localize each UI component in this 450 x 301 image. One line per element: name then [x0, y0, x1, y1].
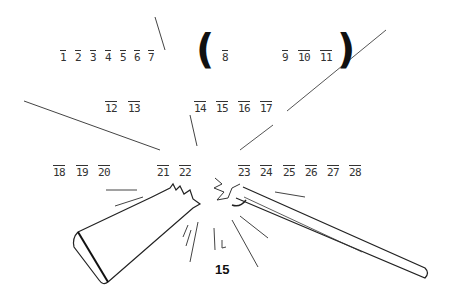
- blank-number: 17: [260, 101, 272, 115]
- broken-rifle-illustration: [0, 0, 450, 301]
- blank-number: 15: [216, 101, 228, 115]
- blank-number: 6: [134, 50, 140, 64]
- ray-line: [240, 125, 273, 150]
- ray-line: [240, 216, 268, 238]
- ray-line: [190, 222, 198, 262]
- blank-number: 12: [105, 101, 117, 115]
- blank-number: 26: [305, 165, 317, 179]
- page-number: 15: [215, 262, 229, 277]
- rifle-barrel: [236, 187, 428, 278]
- blank-number: 5: [120, 50, 126, 64]
- splinter: [222, 240, 226, 248]
- blank-number: 22: [179, 165, 191, 179]
- blank-number: 19: [76, 165, 88, 179]
- blank-number: 27: [327, 165, 339, 179]
- close-parenthesis: ): [337, 29, 355, 69]
- blank-number: 21: [157, 165, 169, 179]
- open-parenthesis: (: [196, 29, 214, 69]
- splinter: [183, 225, 191, 246]
- blank-number: 16: [238, 101, 250, 115]
- blank-number: 24: [260, 165, 272, 179]
- splinter: [214, 178, 240, 200]
- blank-number: 11: [320, 50, 332, 64]
- blank-number: 18: [53, 165, 65, 179]
- blank-number: 20: [98, 165, 110, 179]
- blank-number: 4: [105, 50, 111, 64]
- ray-line: [155, 17, 165, 50]
- ray-line: [275, 192, 305, 197]
- ray-line: [214, 228, 215, 250]
- blank-number: 7: [148, 50, 154, 64]
- blank-number: 9: [282, 50, 288, 64]
- blank-number: 1: [60, 50, 66, 64]
- ray-line: [190, 115, 197, 146]
- blank-number: 8: [222, 50, 228, 64]
- blank-number: 2: [75, 50, 81, 64]
- blank-number: 25: [283, 165, 295, 179]
- blank-number: 13: [128, 101, 140, 115]
- blank-number: 10: [298, 50, 310, 64]
- barrel-rod: [244, 197, 362, 252]
- blank-number: 23: [238, 165, 250, 179]
- blank-number: 3: [90, 50, 96, 64]
- blank-number: 28: [349, 165, 361, 179]
- blank-number: 14: [194, 101, 206, 115]
